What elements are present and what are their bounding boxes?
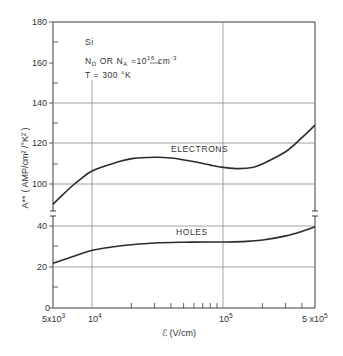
chart: 180 160 140 120 100 40 20 0 5x103 104 10…	[0, 0, 343, 356]
y-tick-40: 40	[37, 221, 47, 231]
x-minor-ticks	[131, 303, 302, 308]
x-tick-1e5: 105	[219, 312, 233, 324]
annotation-temperature: T = 300 °K	[85, 70, 131, 80]
y-tick-140: 140	[32, 98, 47, 108]
axis-break-markers	[50, 211, 318, 216]
y-tick-120: 120	[32, 138, 47, 148]
y-axis-label: A**( AMP/cm² /°K² )	[20, 127, 30, 208]
x-tick-5e3: 5x103	[42, 312, 66, 324]
annotation-doping: ND OR NA =1016 cm-3	[85, 55, 177, 67]
y-tick-20: 20	[37, 262, 47, 272]
y-tick-180: 180	[32, 17, 47, 27]
series-label-electrons: ELECTRONS	[171, 144, 228, 154]
y-axis-label-units: ( AMP/cm² /°K² )	[20, 127, 30, 192]
x-tick-labels: 5x103 104 105 5 x105	[42, 312, 328, 324]
y-tick-160: 160	[32, 58, 47, 68]
annotation-material: Si	[85, 37, 94, 47]
x-tick-1e4: 104	[88, 312, 102, 324]
series-label-holes: HOLES	[176, 227, 208, 237]
annotations: Si ND OR NA =1016 cm-3 T = 300 °K ELECTR…	[85, 37, 228, 237]
x-tick-5e5: 5 x105	[302, 312, 328, 324]
y-tick-100: 100	[32, 179, 47, 189]
y-tick-0: 0	[45, 303, 50, 313]
svg-text:A**( AMP/cm² /°K² ): A**( AMP/cm² /°K² )	[20, 127, 30, 208]
x-axis-label: ℰ (V/cm)	[162, 328, 196, 338]
y-axis-label-main: A**	[20, 195, 30, 209]
y-tick-labels: 180 160 140 120 100 40 20 0	[32, 17, 50, 313]
